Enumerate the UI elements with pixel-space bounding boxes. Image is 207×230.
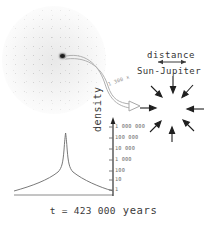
y-tick-label: 100 000 bbox=[115, 135, 138, 140]
infall-arrow-s bbox=[169, 127, 174, 142]
y-tick-label: 1 000 bbox=[115, 157, 132, 162]
infall-arrow-e bbox=[187, 106, 204, 111]
time-caption-value: 423 000 bbox=[74, 205, 116, 216]
distance-label: distance bbox=[135, 50, 207, 60]
density-axis-label: density bbox=[92, 86, 103, 132]
distance-double-arrow bbox=[158, 60, 186, 65]
infall-arrow-w bbox=[140, 105, 156, 110]
infall-arrow-se bbox=[183, 120, 194, 131]
y-axis-tick-labels: 1 000 000100 00010 0001 000100101 bbox=[115, 122, 165, 198]
infall-arrow-nw bbox=[151, 86, 162, 97]
y-tick-label: 10 bbox=[115, 177, 122, 182]
density-profile-curve bbox=[14, 133, 113, 191]
y-tick-label: 100 bbox=[115, 168, 125, 173]
y-tick-label: 1 000 000 bbox=[115, 124, 145, 129]
time-caption: t = 423 000 years bbox=[0, 204, 207, 216]
curved-transition-arrow bbox=[66, 55, 140, 111]
time-caption-unit: years bbox=[116, 204, 158, 216]
infall-arrow-ne bbox=[182, 85, 193, 98]
y-axis-ticks bbox=[109, 127, 113, 190]
figure-canvas: distance Sun-Jupiter 1 300 x density 1 0… bbox=[0, 0, 207, 230]
y-tick-label: 10 000 bbox=[115, 146, 135, 151]
y-tick-label: 1 bbox=[115, 187, 118, 192]
sun-jupiter-label: Sun-Jupiter bbox=[131, 66, 207, 76]
time-caption-prefix: t = bbox=[50, 205, 74, 216]
transition-arrow-svg bbox=[0, 0, 207, 230]
infall-arrow-n bbox=[170, 76, 175, 93]
